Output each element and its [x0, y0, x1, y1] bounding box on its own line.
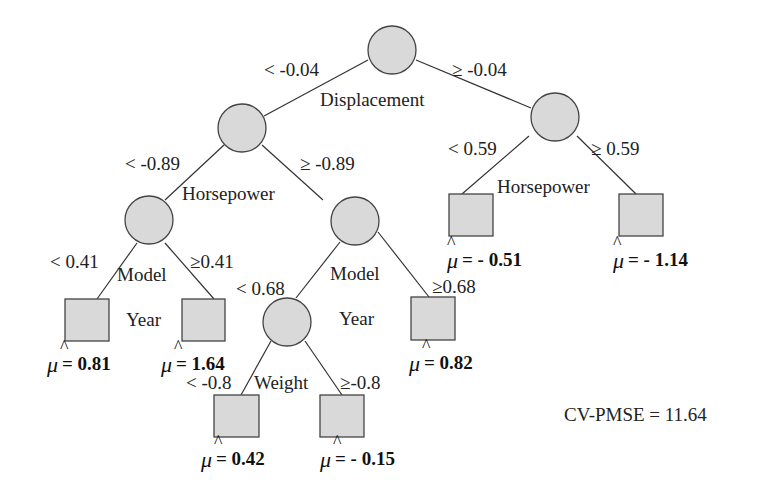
- leaf-value: = 0.42: [216, 448, 265, 469]
- leaf-label-1: ^ μ = 0.81: [46, 337, 111, 377]
- split-label-weight-left: < -0.8: [186, 372, 232, 393]
- split-label-hp2-left: < 0.59: [448, 138, 497, 159]
- edge-my2-right: [378, 232, 429, 297]
- leaf-label-4: ^ μ = - 0.15: [319, 432, 395, 472]
- mu-symbol: μ: [46, 352, 58, 377]
- split-label-hp-right: ≥ -0.89: [300, 153, 355, 174]
- var-label-horsepower-left: Horsepower: [182, 183, 276, 204]
- leaf-box-4: [320, 395, 364, 437]
- split-label-root-right: ≥ -0.04: [452, 59, 507, 80]
- node-model-year-left: [125, 196, 173, 244]
- mu-symbol: μ: [446, 248, 458, 273]
- regression-tree: Displacement Horsepower Horsepower Model…: [0, 0, 780, 495]
- leaf-value: = 1.64: [176, 353, 225, 374]
- var-label-year-right: Year: [339, 308, 375, 329]
- leaf-box-6: [449, 194, 493, 236]
- node-root-displacement: [368, 26, 416, 74]
- leaf-label-6: ^ μ = - 0.51: [446, 233, 522, 273]
- var-label-year-left: Year: [126, 309, 162, 330]
- leaf-label-2: ^ μ = 1.64: [160, 337, 225, 377]
- leaf-value: = 0.81: [62, 353, 111, 374]
- leaf-value: = - 0.51: [462, 249, 522, 270]
- leaf-value: = - 1.14: [628, 249, 688, 270]
- split-label-my2-left: < 0.68: [236, 278, 285, 299]
- var-label-displacement: Displacement: [320, 89, 425, 110]
- split-label-my-right: ≥0.41: [190, 251, 234, 272]
- leaf-value: = 0.82: [424, 352, 473, 373]
- node-horsepower-left: [218, 104, 266, 152]
- mu-symbol: μ: [319, 447, 331, 472]
- leaf-box-7: [619, 194, 663, 236]
- mu-symbol: μ: [408, 351, 420, 376]
- split-label-my2-right: ≥0.68: [432, 276, 476, 297]
- var-label-weight: Weight: [254, 372, 309, 393]
- mu-symbol: μ: [612, 248, 624, 273]
- node-model-year-right: [331, 197, 379, 245]
- leaf-label-3: ^ μ = 0.42: [200, 432, 265, 472]
- var-label-model-right: Model: [330, 263, 380, 284]
- leaf-box-3: [214, 395, 259, 437]
- leaf-box-2: [182, 299, 225, 341]
- split-label-hp-left: < -0.89: [125, 153, 180, 174]
- var-label-horsepower-right: Horsepower: [497, 176, 591, 197]
- mu-symbol: μ: [200, 447, 212, 472]
- split-label-my-left: < 0.41: [50, 251, 99, 272]
- leaf-box-5: [411, 297, 455, 340]
- cv-pmse-label: CV-PMSE = 11.64: [564, 404, 707, 425]
- leaf-label-5: ^ μ = 0.82: [408, 336, 473, 376]
- leaf-label-7: ^ μ = - 1.14: [612, 233, 688, 273]
- node-weight: [263, 298, 311, 346]
- split-label-root-left: < -0.04: [264, 59, 320, 80]
- mu-symbol: μ: [160, 352, 172, 377]
- var-label-model-left: Model: [117, 264, 167, 285]
- node-horsepower-right: [531, 93, 579, 141]
- leaf-value: = - 0.15: [335, 448, 395, 469]
- edge-weight-right: [305, 341, 342, 395]
- split-label-hp2-right: ≥ 0.59: [591, 138, 639, 159]
- split-label-weight-right: ≥-0.8: [340, 372, 381, 393]
- leaf-box-1: [65, 299, 109, 341]
